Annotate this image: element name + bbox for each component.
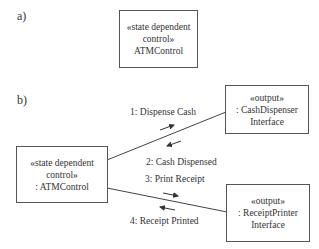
receipt-printer-object-box: «output» : ReceiptPrinter Interface bbox=[226, 184, 310, 242]
class-name: ATMControl bbox=[134, 45, 183, 57]
arrow-print-receipt-icon bbox=[163, 193, 178, 196]
object-name-line2: Interface bbox=[250, 116, 284, 128]
panel-a-label: a) bbox=[17, 9, 26, 24]
stereotype-line1: «state dependent bbox=[30, 157, 94, 169]
cash-dispenser-object-box: «output» : CashDispenser Interface bbox=[225, 85, 309, 134]
message-print-receipt: 3: Print Receipt bbox=[145, 174, 205, 184]
arrow-cash-dispensed-icon bbox=[167, 141, 181, 146]
arrow-dispense-cash-icon bbox=[160, 125, 174, 130]
arrow-receipt-printed-icon bbox=[160, 207, 175, 210]
stereotype: «output» bbox=[250, 92, 284, 104]
atm-control-class-box: «state dependent control» ATMControl bbox=[119, 10, 198, 68]
message-cash-dispensed: 2: Cash Dispensed bbox=[146, 157, 217, 167]
stereotype-line2: control» bbox=[143, 33, 175, 45]
object-name-line2: Interface bbox=[251, 219, 285, 231]
link-atm-cash bbox=[107, 112, 226, 160]
object-name-line1: : ReceiptPrinter bbox=[238, 207, 298, 219]
atm-control-object-box: «state dependent control» : ATMControl bbox=[16, 146, 108, 203]
object-name-line1: : CashDispenser bbox=[236, 104, 298, 116]
panel-b-label: b) bbox=[17, 93, 27, 108]
message-dispense-cash: 1: Dispense Cash bbox=[130, 107, 196, 117]
stereotype-line2: control» bbox=[46, 169, 78, 181]
stereotype: «output» bbox=[251, 195, 285, 207]
object-name: : ATMControl bbox=[35, 181, 89, 193]
message-receipt-printed: 4: Receipt Printed bbox=[130, 216, 199, 226]
stereotype-line1: «state dependent bbox=[127, 21, 191, 33]
